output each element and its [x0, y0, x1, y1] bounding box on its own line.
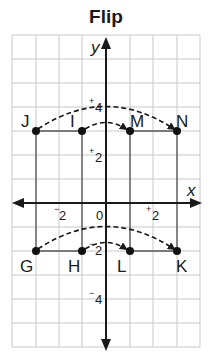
svg-text:2: 2: [95, 243, 102, 258]
y-axis-label: y: [90, 38, 101, 57]
point-label-g: G: [20, 257, 33, 276]
svg-text:+: +: [146, 204, 151, 214]
svg-text:+: +: [89, 96, 94, 106]
tick-label-y-pos2: + 2: [89, 146, 102, 165]
tick-label-y-pos4: + 4: [89, 96, 102, 115]
svg-text:2: 2: [59, 208, 66, 223]
svg-text:4: 4: [95, 292, 102, 307]
origin-label: 0: [96, 208, 103, 223]
y-axis: [101, 37, 111, 351]
svg-text:2: 2: [95, 150, 102, 165]
point-k: [173, 247, 181, 255]
svg-text:2: 2: [152, 208, 159, 223]
tick-label-y-neg2: − 2: [89, 239, 102, 258]
point-label-n: N: [176, 112, 188, 131]
x-axis-label: x: [186, 181, 196, 200]
point-label-h: H: [68, 257, 80, 276]
point-j: [32, 127, 40, 135]
point-label-i: I: [70, 112, 75, 131]
point-i: [78, 127, 86, 135]
coordinate-plane: x y 0 − 2 + 2 + 4 + 2 − 2 − 4: [0, 0, 212, 362]
point-h: [78, 247, 86, 255]
point-label-j: J: [21, 112, 30, 131]
point-g: [32, 247, 40, 255]
tick-label-x-neg2: − 2: [54, 204, 66, 223]
svg-text:+: +: [89, 146, 94, 156]
point-label-m: M: [130, 112, 144, 131]
point-l: [126, 247, 134, 255]
tick-label-y-neg4: − 4: [89, 288, 102, 307]
point-label-l: L: [117, 257, 126, 276]
svg-text:−: −: [89, 288, 94, 298]
point-label-k: K: [176, 257, 188, 276]
